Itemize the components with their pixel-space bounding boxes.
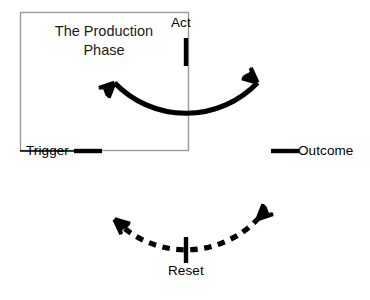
node-label-outcome: Outcome — [298, 144, 353, 158]
arrow-upper-right-icon — [241, 67, 263, 88]
node-label-act: Act — [171, 16, 191, 30]
phase-title-line-2: Phase — [24, 41, 184, 60]
node-label-reset: Reset — [168, 264, 204, 278]
phase-box-title: The Production Phase — [24, 22, 184, 60]
phase-title-line-1: The Production — [55, 23, 153, 39]
production-phase-cycle-diagram: The Production Phase Act Outcome Reset T… — [0, 0, 370, 300]
arrow-upper-left-icon — [98, 77, 120, 98]
node-label-trigger: Trigger — [26, 144, 69, 158]
cycle-arc-trigger-to-act — [115, 83, 258, 114]
